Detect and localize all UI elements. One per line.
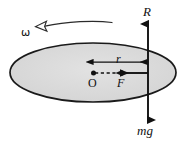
- angular-velocity-label: ω: [21, 27, 30, 38]
- physics-diagram-figure: R mg r O F ω: [0, 0, 189, 143]
- diagram-canvas: [0, 0, 189, 143]
- angular-velocity-arrowhead: [36, 21, 47, 31]
- weight-label: mg: [137, 124, 153, 137]
- angular-velocity-arc: [45, 21, 112, 26]
- normal-reaction-label: R: [143, 5, 151, 18]
- force-label: F: [117, 77, 124, 89]
- centre-label: O: [88, 77, 97, 89]
- radius-label: r: [116, 53, 121, 65]
- centre-point: [91, 71, 96, 76]
